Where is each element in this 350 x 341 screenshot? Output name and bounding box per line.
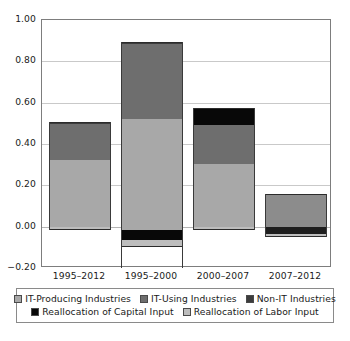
stacked-bar-chart-figure: 1.00 0.80 0.60 0.40 0.20 0.00 −0.20 — [0, 0, 350, 341]
legend-item-reallocation-of-capital-input[interactable]: Reallocation of Capital Input — [31, 307, 173, 317]
stacked-bar-negative[interactable] — [121, 230, 183, 268]
legend-item-it-using-industries[interactable]: IT-Using Industries — [140, 294, 237, 304]
stacked-bar-negative[interactable] — [193, 227, 255, 230]
legend-label: Reallocation of Labor Input — [194, 307, 319, 317]
stacked-bar[interactable] — [193, 108, 255, 230]
y-tick-label: 0.80 — [0, 55, 36, 64]
segment-it-producing-industries — [194, 164, 254, 230]
y-tick-label: 0.60 — [0, 97, 36, 106]
x-tick-label: 1995–2000 — [113, 270, 189, 281]
legend-label: Reallocation of Capital Input — [42, 307, 173, 317]
x-tick-label: 2007–2012 — [257, 270, 333, 281]
bar-group-2007-2012[interactable] — [265, 20, 327, 266]
stacked-bar[interactable] — [121, 42, 183, 230]
x-tick-label: 2000–2007 — [185, 270, 261, 281]
segment-reallocation-of-labor-input — [50, 227, 110, 230]
segment-it-producing-industries — [50, 160, 110, 230]
segment-it-using-industries — [122, 44, 182, 119]
y-tick-label: 0.00 — [0, 221, 36, 230]
segment-reallocation-of-labor-input — [266, 234, 326, 237]
legend-item-non-it-industries[interactable]: Non-IT Industries — [246, 294, 336, 304]
bar-group-1995-2012[interactable] — [49, 20, 111, 266]
plot-area — [41, 19, 331, 267]
segment-reallocation-of-capital-input — [266, 227, 326, 234]
stacked-bar-negative[interactable] — [265, 227, 327, 237]
legend-swatch-icon — [14, 295, 22, 303]
segment-reallocation-of-capital-input — [122, 230, 182, 240]
segment-it-using-industries — [194, 125, 254, 163]
legend-swatch-icon — [140, 295, 148, 303]
y-tick-label: −0.20 — [0, 262, 36, 271]
bar-group-1995-2000[interactable] — [121, 20, 183, 266]
y-tick-label: 1.00 — [0, 14, 36, 23]
legend-swatch-icon — [246, 295, 254, 303]
legend-swatch-icon — [31, 308, 39, 316]
stacked-bar[interactable] — [49, 122, 111, 229]
legend-label: IT-Producing Industries — [25, 294, 131, 304]
segment-it-using-industries — [50, 124, 110, 159]
x-axis: 1995–2012 1995–2000 2000–2007 2007–2012 — [41, 270, 331, 284]
x-tick-label: 1995–2012 — [41, 270, 117, 281]
y-tick-label: 0.20 — [0, 179, 36, 188]
legend-item-it-producing-industries[interactable]: IT-Producing Industries — [14, 294, 131, 304]
chart-legend: IT-Producing Industries IT-Using Industr… — [16, 288, 334, 323]
legend-row-2: Reallocation of Capital Input Reallocati… — [21, 305, 329, 318]
segment-reallocation-of-labor-input — [194, 227, 254, 230]
segment-it-using-industries — [266, 194, 326, 227]
stacked-bar-negative[interactable] — [49, 227, 111, 230]
segment-reallocation-of-capital-input — [194, 108, 254, 126]
segment-it-producing-industries — [122, 119, 182, 230]
y-tick-label: 0.40 — [0, 138, 36, 147]
stacked-bar[interactable] — [265, 194, 327, 229]
legend-label: Non-IT Industries — [257, 294, 336, 304]
legend-item-reallocation-of-labor-input[interactable]: Reallocation of Labor Input — [183, 307, 319, 317]
bar-group-2000-2007[interactable] — [193, 20, 255, 266]
segment-reallocation-of-labor-input — [122, 240, 182, 247]
legend-row-1: IT-Producing Industries IT-Using Industr… — [21, 292, 329, 305]
legend-label: IT-Using Industries — [151, 294, 237, 304]
legend-swatch-icon — [183, 308, 191, 316]
